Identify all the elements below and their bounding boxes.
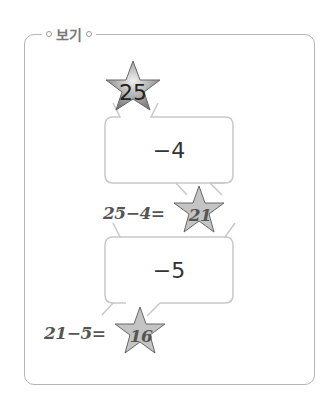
operation-1: −4 — [105, 138, 233, 163]
equation-1: 25−4= — [103, 203, 164, 223]
result-1: 21 — [186, 205, 214, 225]
flow-diagram — [0, 0, 334, 406]
start-value: 25 — [113, 80, 153, 105]
result-2: 16 — [127, 326, 155, 346]
operation-2: −5 — [105, 258, 233, 283]
equation-2: 21−5= — [44, 323, 105, 343]
